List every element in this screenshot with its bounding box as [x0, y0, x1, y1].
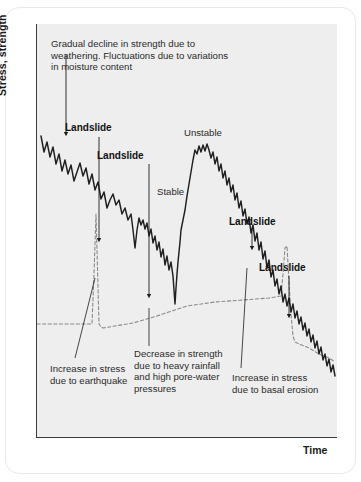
label-unstable: Unstable [184, 127, 222, 139]
label-landslide-3: Landslide [229, 216, 276, 228]
note-erosion: Increase in stress due to basal erosion [232, 372, 324, 395]
leader-earthquake [75, 278, 95, 358]
figure-card: Stress, strength [0, 0, 361, 482]
y-axis-label: Stress, strength [0, 0, 8, 96]
x-axis-label: Time [303, 444, 327, 456]
note-rainfall: Decrease in strength due to heavy rainfa… [134, 348, 226, 394]
note-weathering: Gradual decline in strength due to weath… [51, 38, 236, 73]
note-earthquake: Increase in stress due to earthquake [50, 363, 136, 386]
label-landslide-4: Landslide [259, 262, 306, 274]
label-landslide-1: Landslide [65, 122, 112, 134]
label-landslide-2: Landslide [97, 150, 144, 162]
label-stable: Stable [157, 186, 184, 198]
leader-erosion [241, 268, 247, 368]
